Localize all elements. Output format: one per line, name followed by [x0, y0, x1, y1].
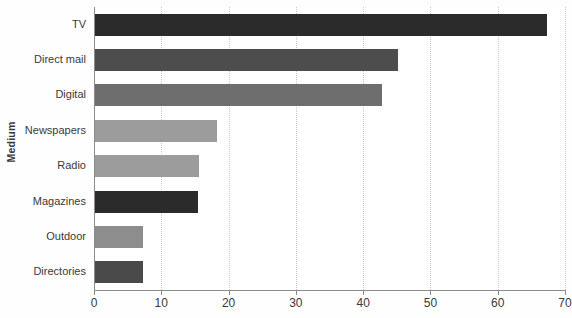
x-tick-label-60: 60: [478, 296, 518, 310]
x-tick-label-10: 10: [141, 296, 181, 310]
y-tick-label-magazines: Magazines: [0, 195, 86, 207]
x-axis-line: [94, 290, 565, 291]
bar-row: [94, 7, 565, 42]
x-tick-10: [161, 290, 162, 295]
x-tick-30: [296, 290, 297, 295]
x-tick-40: [363, 290, 364, 295]
bar-directories: [94, 261, 143, 283]
bar-radio: [94, 155, 199, 177]
bar-outdoor: [94, 226, 143, 248]
x-tick-label-30: 30: [276, 296, 316, 310]
y-tick-label-direct-mail: Direct mail: [0, 53, 86, 65]
x-tick-label-50: 50: [410, 296, 450, 310]
bar-row: [94, 149, 565, 184]
bar-row: [94, 255, 565, 290]
bar-row: [94, 42, 565, 77]
x-tick-50: [430, 290, 431, 295]
x-tick-label-40: 40: [343, 296, 383, 310]
x-tick-label-20: 20: [209, 296, 249, 310]
bar-magazines: [94, 191, 198, 213]
y-tick-label-newspapers: Newspapers: [0, 124, 86, 136]
bar-tv: [94, 14, 547, 36]
x-tick-0: [94, 290, 95, 295]
bar-row: [94, 184, 565, 219]
x-tick-70: [565, 290, 566, 295]
x-tick-label-70: 70: [545, 296, 572, 310]
bar-chart: Medium TVDirect mailDigitalNewspapersRad…: [0, 0, 572, 318]
y-axis-line: [94, 7, 95, 291]
bar-direct-mail: [94, 49, 398, 71]
bar-row: [94, 219, 565, 254]
bar-row: [94, 113, 565, 148]
y-tick-label-outdoor: Outdoor: [0, 230, 86, 242]
y-tick-label-directories: Directories: [0, 265, 86, 277]
x-tick-20: [229, 290, 230, 295]
gridline-70: [565, 7, 566, 290]
y-tick-label-tv: TV: [0, 18, 86, 30]
x-tick-label-0: 0: [74, 296, 114, 310]
y-tick-label-radio: Radio: [0, 159, 86, 171]
bar-digital: [94, 84, 382, 106]
bar-row: [94, 78, 565, 113]
y-tick-label-digital: Digital: [0, 88, 86, 100]
bar-newspapers: [94, 120, 217, 142]
x-tick-60: [498, 290, 499, 295]
